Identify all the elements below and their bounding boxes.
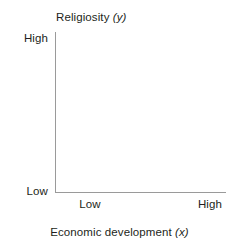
x-axis-title: Economic development (x) (0, 226, 239, 238)
x-axis-variable: (x) (172, 226, 189, 238)
y-axis-variable: (y) (110, 11, 127, 23)
chart-figure: Religiosity (y) High Low Low High Econom… (0, 0, 239, 247)
x-axis-tick-high: High (186, 198, 234, 210)
y-axis-title-text: Religiosity (56, 11, 110, 23)
x-axis-line (55, 192, 226, 193)
x-axis-tick-low: Low (66, 198, 114, 210)
y-axis-title: Religiosity (y) (56, 11, 127, 23)
x-axis-title-text: Economic development (50, 226, 172, 238)
y-axis-line (55, 32, 56, 193)
y-axis-tick-high: High (0, 32, 48, 44)
y-axis-tick-low: Low (0, 185, 48, 197)
